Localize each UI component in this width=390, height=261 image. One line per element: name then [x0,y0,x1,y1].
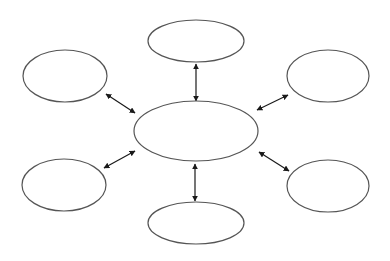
node-bottom-right [287,160,369,212]
double-arrow-bottom-right [259,152,289,171]
node-bottom [148,202,244,244]
node-bottom-left [22,159,106,211]
node-top-left [23,50,107,102]
node-center [134,101,258,161]
ellipse-top-right [287,50,369,102]
ellipse-bottom [148,202,244,244]
ellipse-bottom-right [287,160,369,212]
double-arrow-top-right [257,95,288,110]
ellipse-bottom-left [22,159,106,211]
hub-spoke-diagram [0,0,390,261]
node-top [148,20,244,62]
ellipse-center [134,101,258,161]
double-arrow-top-left [106,94,135,113]
double-arrow-bottom-left [104,151,135,168]
ellipse-top-left [23,50,107,102]
nodes-group [22,20,369,244]
node-top-right [287,50,369,102]
ellipse-top [148,20,244,62]
